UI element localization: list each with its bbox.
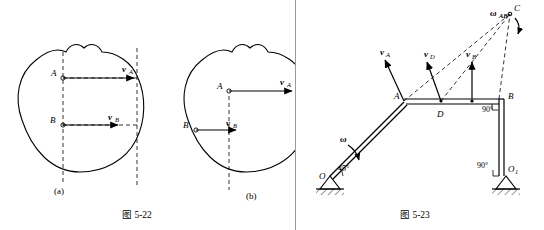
caption-figure-5-23: 图 5-23 xyxy=(400,207,430,221)
label-velocity-b-a: v xyxy=(108,112,113,122)
ground-hatch-o xyxy=(316,189,344,195)
label-omega-oa: ω xyxy=(340,134,347,144)
right-angle-mark-o1 xyxy=(493,170,499,176)
label-point-c: C xyxy=(514,3,521,13)
figure-sheet: A B v A v B A B v A v B (a) (b) xyxy=(0,0,544,230)
label-angle-90-d: 90° xyxy=(482,105,493,114)
label-point-a-a: A xyxy=(50,68,57,78)
label-omega-ab-sub: AB xyxy=(498,12,508,19)
label-point-a-b: A xyxy=(216,81,223,91)
subfigure-label-a: (a) xyxy=(54,186,64,196)
label-velocity-b-b: v xyxy=(226,118,231,128)
figure-5-23-drawing: A B C D O O 1 ω ω AB v A v D v B 45° 90°… xyxy=(296,0,544,230)
label-velocity-b-sub: B xyxy=(472,53,476,60)
label-velocity-b-sub-b: B xyxy=(233,122,237,129)
label-point-o: O xyxy=(319,171,326,181)
label-point-a: A xyxy=(393,91,400,101)
label-velocity-a: v xyxy=(380,47,385,57)
label-point-o1-sub: 1 xyxy=(515,168,518,175)
figure-5-23: A B C D O O 1 ω ω AB v A v D v B 45° 90°… xyxy=(296,0,544,230)
pin-support-o1 xyxy=(496,176,516,189)
ground-hatch-o1 xyxy=(492,189,520,195)
label-velocity-a-b: v xyxy=(280,77,285,87)
dashed-line-b-c xyxy=(499,14,510,99)
label-point-b: B xyxy=(508,91,514,101)
label-point-d: D xyxy=(436,109,444,119)
label-velocity-d-sub: D xyxy=(429,53,435,60)
label-angle-45: 45° xyxy=(338,164,349,173)
body-outline-b xyxy=(184,45,295,172)
label-velocity-b: v xyxy=(466,49,471,59)
label-point-b-a: B xyxy=(50,115,56,125)
label-velocity-a-sub: A xyxy=(385,51,390,58)
label-velocity-a-sub-b: A xyxy=(286,81,291,88)
label-point-o1: O xyxy=(508,164,515,174)
caption-figure-5-22: 图 5-22 xyxy=(122,207,152,221)
label-angle-90-o1: 90° xyxy=(477,161,488,170)
label-velocity-b-sub-a: B xyxy=(115,116,119,123)
point-marker-b-mid xyxy=(470,99,473,102)
dashed-line-a-c xyxy=(404,14,510,101)
label-velocity-a-a: v xyxy=(122,64,127,74)
label-point-b-b: B xyxy=(183,120,189,130)
velocity-vector-d xyxy=(427,62,441,101)
figure-5-22: A B v A v B A B v A v B (a) (b) xyxy=(0,0,295,230)
omega-arc-ab xyxy=(515,18,519,34)
point-marker-d xyxy=(439,99,442,102)
label-velocity-a-sub-a: A xyxy=(128,68,133,75)
label-velocity-d: v xyxy=(424,49,429,59)
label-omega-ab: ω xyxy=(490,8,497,18)
subfigure-label-b: (b) xyxy=(246,191,257,201)
